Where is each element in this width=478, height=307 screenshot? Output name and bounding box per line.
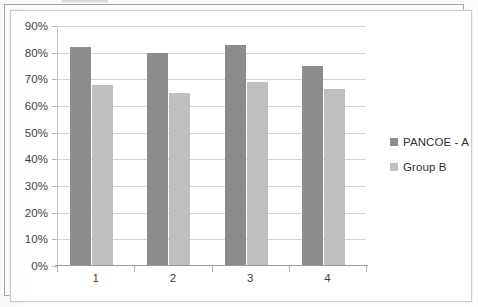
bar-series-b	[247, 82, 268, 266]
bar-series-a	[147, 53, 168, 266]
legend-item: PANCOE - A	[390, 136, 478, 148]
y-axis-labels: 90%80%70%60%50%40%30%20%10%0%	[10, 26, 54, 266]
bar-series-b	[92, 85, 113, 266]
x-axis-labels: 1234	[57, 272, 366, 292]
y-axis-tick	[52, 159, 57, 160]
y-axis-tick	[52, 133, 57, 134]
y-axis-tick	[52, 26, 57, 27]
y-axis-tick	[52, 213, 57, 214]
y-axis-tick-label: 50%	[25, 127, 48, 139]
scanned-page: 90%80%70%60%50%40%30%20%10%0% 1234 PANCO…	[0, 0, 478, 307]
x-axis-tick-label: 3	[247, 272, 253, 284]
y-axis-tick-label: 70%	[25, 73, 48, 85]
bar-series-b	[324, 89, 345, 266]
y-axis-tick-label: 40%	[25, 153, 48, 165]
y-axis-tick	[52, 53, 57, 54]
legend-item: Group B	[390, 161, 478, 173]
y-axis-tick-label: 30%	[25, 180, 48, 192]
chart-legend: PANCOE - AGroup B	[390, 136, 478, 186]
x-axis-tick-label: 4	[324, 272, 330, 284]
bar-chart: 90%80%70%60%50%40%30%20%10%0% 1234 PANCO…	[10, 10, 470, 300]
y-axis-tick	[52, 106, 57, 107]
bar-series-a	[225, 45, 246, 266]
bar-group	[57, 26, 134, 266]
legend-swatch-icon	[390, 163, 398, 171]
plot-area	[57, 26, 366, 266]
bar-series-a	[302, 66, 323, 266]
y-axis-tick-label: 90%	[25, 20, 48, 32]
bar-group	[289, 26, 366, 266]
legend-label: PANCOE - A	[403, 136, 469, 148]
y-axis-tick	[52, 186, 57, 187]
bars-layer	[57, 26, 366, 266]
y-axis-tick	[52, 79, 57, 80]
legend-label: Group B	[403, 161, 447, 173]
x-axis-separator	[366, 266, 367, 272]
x-axis-line	[55, 265, 368, 266]
y-axis-tick	[52, 239, 57, 240]
x-axis-tick-label: 1	[92, 272, 98, 284]
y-axis-tick	[52, 266, 57, 267]
x-axis-tick-label: 2	[170, 272, 176, 284]
y-axis-tick-label: 60%	[25, 100, 48, 112]
bar-series-b	[169, 93, 190, 266]
legend-swatch-icon	[390, 138, 398, 146]
y-axis-tick-label: 0%	[31, 260, 48, 272]
y-axis-tick-label: 10%	[25, 233, 48, 245]
bar-group	[212, 26, 289, 266]
page-top-artifact	[62, 0, 108, 3]
y-axis-tick-label: 20%	[25, 207, 48, 219]
bar-group	[134, 26, 211, 266]
bar-series-a	[70, 47, 91, 266]
y-axis-tick-label: 80%	[25, 47, 48, 59]
